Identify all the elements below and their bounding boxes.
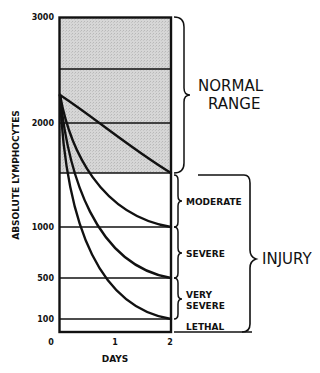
moderate-label: MODERATE	[186, 197, 242, 207]
y-axis-label: ABSOLUTE LYMPHOCYTES	[11, 110, 21, 240]
y-axis-ticks: 3000 2000 1000 500 100	[32, 13, 55, 324]
normal-label-line1: NORMAL	[198, 77, 264, 95]
y-tick-2000: 2000	[32, 119, 55, 128]
x-axis-ticks: 0 1 2	[48, 338, 173, 347]
normal-label-line2: RANGE	[208, 95, 260, 113]
y-tick-500: 500	[37, 274, 54, 283]
x-tick-0: 0	[48, 338, 54, 347]
lymphocyte-chart: 3000 2000 1000 500 100 0 1 2 DAYS ABSOLU…	[0, 0, 320, 373]
injury-label: INJURY	[262, 250, 313, 268]
brace-very-severe	[174, 278, 182, 319]
y-tick-3000: 3000	[32, 13, 55, 22]
brace-severe	[174, 227, 182, 278]
x-axis-label: DAYS	[102, 354, 129, 364]
y-tick-100: 100	[37, 315, 54, 324]
very-severe-label-line1: VERY	[186, 290, 213, 300]
x-tick-1: 1	[112, 338, 118, 347]
lethal-label: LETHAL	[186, 322, 225, 332]
y-tick-1000: 1000	[32, 223, 55, 232]
severe-label: SEVERE	[186, 249, 225, 259]
x-tick-2: 2	[167, 338, 173, 347]
very-severe-label-line2: SEVERE	[186, 301, 225, 311]
brace-normal	[174, 17, 190, 173]
brace-moderate	[174, 175, 182, 227]
